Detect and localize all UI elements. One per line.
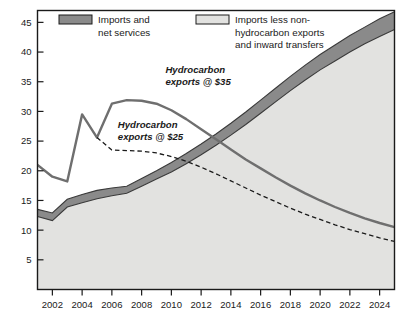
chart-canvas: 51015202530354045 2002200420062008201020…: [0, 0, 416, 328]
y-tick-label: 5: [26, 254, 31, 265]
annotation-hydrocarbon-25: Hydrocarbon: [118, 119, 178, 130]
annotation-hydrocarbon-35: exports @ $35: [165, 76, 231, 87]
x-tick-label: 2018: [280, 299, 301, 310]
annotation-hydrocarbon-35: Hydrocarbon: [165, 64, 225, 75]
y-tick-label: 20: [21, 165, 32, 176]
x-axis: 2002200420062008201020122014201620182020…: [42, 290, 390, 310]
annotation-hydrocarbon-25: exports @ $25: [118, 131, 184, 142]
x-tick-label: 2020: [310, 299, 331, 310]
legend-label-imports-net-services: Imports and: [98, 14, 150, 25]
y-tick-label: 25: [21, 135, 32, 146]
legend-swatch-imports-less-nonhydrocarbon: [196, 15, 229, 24]
x-tick-label: 2006: [101, 299, 122, 310]
legend-label-imports-less-nonhydrocarbon: and inward transfers: [235, 39, 324, 50]
x-tick-label: 2012: [191, 299, 212, 310]
y-tick-label: 30: [21, 106, 32, 117]
x-tick-label: 2010: [161, 299, 182, 310]
x-tick-label: 2022: [339, 299, 360, 310]
y-tick-label: 35: [21, 76, 32, 87]
x-tick-label: 2002: [42, 299, 63, 310]
legend-label-imports-less-nonhydrocarbon: Imports less non-: [235, 14, 310, 25]
x-tick-label: 2004: [72, 299, 93, 310]
y-tick-label: 40: [21, 46, 32, 57]
y-tick-label: 15: [21, 195, 32, 206]
x-tick-label: 2014: [220, 299, 241, 310]
x-tick-label: 2008: [131, 299, 152, 310]
chart-container: 51015202530354045 2002200420062008201020…: [0, 0, 416, 328]
x-tick-label: 2016: [250, 299, 271, 310]
y-tick-label: 45: [21, 17, 32, 28]
x-tick-label: 2024: [369, 299, 390, 310]
legend-swatch-imports-net-services: [59, 15, 92, 24]
y-tick-label: 10: [21, 225, 32, 236]
legend-label-imports-less-nonhydrocarbon: hydrocarbon exports: [235, 27, 324, 38]
legend-label-imports-net-services: net services: [98, 27, 150, 38]
